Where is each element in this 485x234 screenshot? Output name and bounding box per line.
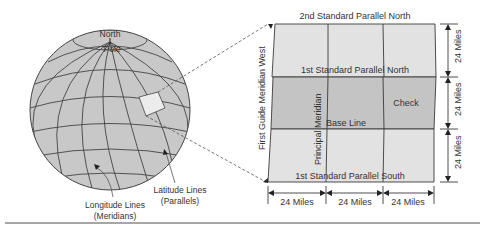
arrow-icon: [263, 178, 268, 183]
pole-label: Pole: [103, 44, 120, 54]
dimension-label-horizontal-3: 24 Miles: [391, 197, 425, 207]
dimension-label-vertical-2: 24 Miles: [453, 82, 463, 116]
first-standard-parallel-north-label: 1st Standard Parallel North: [301, 65, 409, 75]
latitude-sublabel: (Parallels): [161, 196, 199, 206]
guide-meridian-label: First Guide Meridian West: [257, 46, 267, 150]
dimension-label-horizontal-2: 24 Miles: [338, 197, 372, 207]
latitude-label: Latitude Lines: [154, 185, 207, 195]
base-line-label: Base Line: [326, 118, 366, 128]
second-standard-parallel-north-label: 2nd Standard Parallel North: [299, 11, 410, 21]
dimension-label-horizontal-1: 24 Miles: [280, 197, 314, 207]
principal-meridian-label: Principal Meridian: [313, 93, 323, 165]
arrow-icon: [268, 24, 273, 29]
first-standard-parallel-south-label: 1st Standard Parallel South: [295, 171, 405, 181]
survey-diagram: North Pole Longitude Lines (Meridians) L…: [0, 0, 485, 234]
longitude-label: Longitude Lines: [85, 200, 145, 210]
longitude-sublabel: (Meridians): [94, 211, 137, 221]
north-label: North: [100, 29, 121, 39]
globe: [30, 30, 190, 190]
dimension-label-vertical-3: 24 Miles: [453, 135, 463, 169]
check-label: Check: [393, 98, 419, 108]
dimension-label-vertical-1: 24 Miles: [453, 29, 463, 63]
